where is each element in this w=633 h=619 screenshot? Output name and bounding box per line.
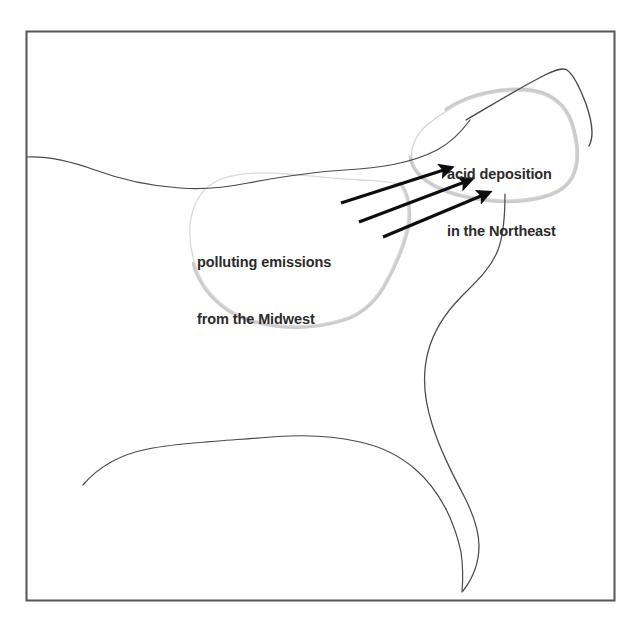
diagram-canvas: acid deposition in the Northeast polluti… xyxy=(0,0,633,619)
label-polluting-emissions-line1: polluting emissions xyxy=(197,253,331,272)
label-acid-deposition-line1: acid deposition xyxy=(447,165,556,184)
label-acid-deposition-northeast: acid deposition in the Northeast xyxy=(447,127,556,279)
label-polluting-emissions-midwest: polluting emissions from the Midwest xyxy=(197,215,331,367)
label-polluting-emissions-line2: from the Midwest xyxy=(197,310,331,329)
label-acid-deposition-line2: in the Northeast xyxy=(447,222,556,241)
